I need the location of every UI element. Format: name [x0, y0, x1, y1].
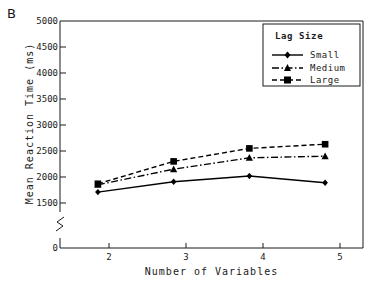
- data-point-marker: [171, 178, 177, 184]
- y-axis-ticks: [60, 47, 66, 203]
- data-point-marker: [95, 189, 101, 195]
- legend-item-small: Small: [310, 50, 340, 60]
- legend-item-medium: Medium: [310, 63, 346, 73]
- plot-canvas: Lag Size Small Medium Large: [0, 0, 376, 287]
- data-point-marker: [247, 173, 253, 179]
- series-medium: [94, 152, 328, 187]
- data-point-marker: [170, 158, 177, 165]
- legend-title: Lag Size: [275, 31, 323, 41]
- data-point-marker: [322, 141, 329, 148]
- legend-box: Lag Size Small Medium Large: [263, 24, 360, 86]
- data-point-marker: [322, 152, 329, 159]
- y-axis-break-icon: [56, 217, 64, 231]
- data-point-marker: [246, 154, 253, 161]
- legend-item-large: Large: [310, 75, 340, 85]
- data-point-marker: [246, 145, 253, 152]
- x-axis-ticks: [109, 243, 340, 248]
- data-point-marker: [170, 165, 177, 172]
- data-point-marker: [322, 180, 328, 186]
- series-small: [95, 173, 328, 196]
- figure-panel-b: B Mean Reaction Time (ms) Number of Vari…: [0, 0, 376, 287]
